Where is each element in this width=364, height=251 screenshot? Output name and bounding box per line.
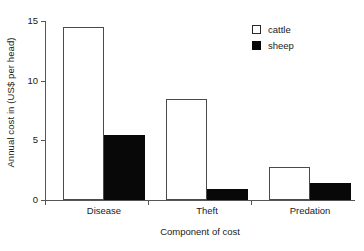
chart-legend: cattle sheep [252, 21, 294, 53]
bar-disease-sheep [104, 135, 145, 200]
category-label-disease: Disease [87, 205, 121, 216]
legend-item-cattle: cattle [252, 21, 294, 37]
y-axis-title-text: Annual cost in (US$ per head) [5, 37, 16, 167]
y-axis-title: Annual cost in (US$ per head) [0, 0, 20, 205]
y-tick-15: 15 [41, 21, 45, 22]
legend-label-cattle: cattle [268, 24, 291, 35]
bar-disease-cattle [63, 27, 104, 200]
y-tick-label-15: 15 [27, 15, 38, 26]
y-axis-line [45, 21, 46, 200]
bar-chart-figure: Annual cost in (US$ per head) 0 5 10 15 … [0, 0, 364, 251]
x-axis-title: Component of cost [45, 226, 355, 237]
category-label-predation: Predation [290, 205, 331, 216]
legend-label-sheep: sheep [268, 40, 294, 51]
y-tick-10: 10 [41, 81, 45, 82]
x-tick-a [45, 200, 46, 205]
y-tick-label-10: 10 [27, 75, 38, 86]
y-tick-label-0: 0 [33, 194, 38, 205]
y-tick-label-5: 5 [33, 134, 38, 145]
bar-predation-sheep [310, 183, 351, 200]
legend-swatch-cattle-icon [252, 25, 261, 34]
bar-theft-sheep [207, 189, 248, 200]
legend-swatch-sheep-icon [252, 41, 261, 50]
x-tick-c [251, 200, 252, 205]
x-tick-b [148, 200, 149, 205]
plot-area: 0 5 10 15 Disease Theft Predation [45, 21, 355, 200]
y-tick-5: 5 [41, 140, 45, 141]
category-label-theft: Theft [196, 205, 218, 216]
legend-item-sheep: sheep [252, 37, 294, 53]
bar-predation-cattle [269, 167, 310, 200]
x-axis-line [45, 200, 355, 201]
bar-theft-cattle [166, 99, 207, 200]
